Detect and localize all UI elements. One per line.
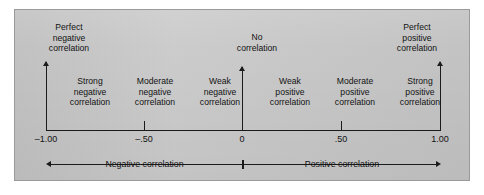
band-weak-negative-line-1: Weak [187,76,253,87]
band-label-weak-positive: Weak positive correlation [257,76,323,108]
figure-page: Perfect negative correlation No correlat… [0,0,484,195]
axis-value-neg-half: –.50 [121,134,167,145]
perfect-positive-line-1: Perfect [375,22,459,33]
axis-tick-neg-half [144,121,145,131]
band-moderate-positive-line-2: positive [322,87,388,98]
perfect-positive-line-3: correlation [375,43,459,54]
correlation-scale-panel: Perfect negative correlation No correlat… [14,9,470,181]
band-moderate-negative-line-3: correlation [122,97,188,108]
band-label-strong-negative: Strong negative correlation [57,76,123,108]
band-weak-positive-line-1: Weak [257,76,323,87]
perfect-negative-line-3: correlation [27,43,111,54]
band-strong-positive-line-2: positive [387,87,453,98]
negative-correlation-span-label: Negative correlation [100,158,188,170]
band-strong-negative-line-2: negative [57,87,123,98]
correlation-axis-line [46,130,441,131]
band-weak-positive-line-2: positive [257,87,323,98]
perfect-positive-correlation-label: Perfect positive correlation [375,22,459,54]
band-weak-positive-line-3: correlation [257,97,323,108]
up-arrow-icon-perfect-negative [46,62,47,131]
perfect-negative-correlation-label: Perfect negative correlation [27,22,111,54]
band-moderate-positive-line-3: correlation [322,97,388,108]
axis-value-pos-half: .50 [318,134,364,145]
band-moderate-negative-line-2: negative [122,87,188,98]
no-correlation-label: No correlation [215,32,299,53]
band-weak-negative-line-2: negative [187,87,253,98]
band-label-strong-positive: Strong positive correlation [387,76,453,108]
no-correlation-line-1: No [215,32,299,43]
axis-value-pos-one: 1.00 [417,134,463,145]
band-strong-positive-line-3: correlation [387,97,453,108]
band-strong-positive-line-1: Strong [387,76,453,87]
perfect-positive-line-2: positive [375,33,459,44]
band-label-weak-negative: Weak negative correlation [187,76,253,108]
positive-correlation-span-label: Positive correlation [300,158,384,170]
perfect-negative-line-1: Perfect [27,22,111,33]
band-strong-negative-line-1: Strong [57,76,123,87]
perfect-negative-line-2: negative [27,33,111,44]
band-moderate-negative-line-1: Moderate [122,76,188,87]
band-label-moderate-negative: Moderate negative correlation [122,76,188,108]
negative-correlation-span: Negative correlation [46,158,243,170]
axis-value-neg-one: –1.00 [23,134,69,145]
band-weak-negative-line-3: correlation [187,97,253,108]
positive-correlation-span: Positive correlation [243,158,441,170]
no-correlation-line-2: correlation [215,43,299,54]
axis-value-zero: 0 [219,134,265,145]
band-moderate-positive-line-1: Moderate [322,76,388,87]
band-strong-negative-line-3: correlation [57,97,123,108]
right-arrow-icon-positive-span [436,161,441,167]
band-label-moderate-positive: Moderate positive correlation [322,76,388,108]
axis-tick-pos-half [341,121,342,131]
